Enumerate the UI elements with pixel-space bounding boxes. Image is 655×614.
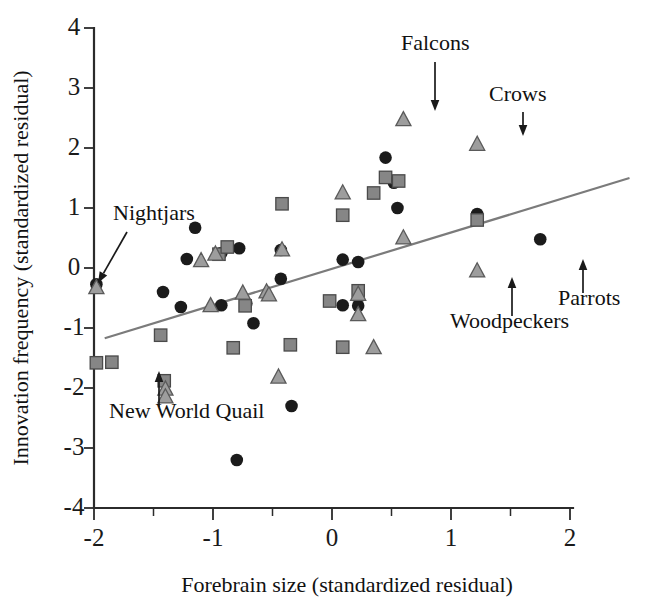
data-point-circle (233, 242, 246, 255)
data-point-circle (534, 233, 547, 246)
data-point-circle (275, 273, 288, 286)
data-point-square (392, 175, 404, 187)
x-tick-label: -1 (203, 524, 224, 551)
data-point-square (337, 341, 349, 353)
data-point-square (367, 187, 379, 199)
x-axis-title: Forebrain size (standardized residual) (181, 572, 513, 597)
y-tick-label: -2 (64, 373, 85, 400)
figure-container: -4-3-2-101234-2-1012 NightjarsNew World … (0, 0, 655, 614)
data-point-triangle (366, 340, 381, 354)
annotation-label-parrots: Parrots (558, 285, 620, 310)
data-point-triangle (271, 369, 286, 383)
x-tick-label: 2 (564, 524, 577, 551)
data-point-square (154, 329, 166, 341)
annotations: NightjarsNew World QuailFalconsCrowsWood… (98, 30, 620, 423)
annotation-label-new-world-quail: New World Quail (109, 398, 264, 423)
annotation-arrowhead-parrots (579, 259, 588, 270)
data-point-square (284, 339, 296, 351)
data-point-square (106, 356, 118, 368)
y-tick-label: -3 (64, 433, 85, 460)
data-point-square (323, 295, 335, 307)
scatter-plot: -4-3-2-101234-2-1012 NightjarsNew World … (0, 0, 655, 614)
data-point-triangle (194, 253, 209, 267)
data-point-square (90, 357, 102, 369)
annotation-label-falcons: Falcons (401, 30, 469, 55)
data-point-square (471, 214, 483, 226)
annotation-label-nightjars: Nightjars (113, 200, 195, 225)
annotation-arrowhead-falcons (431, 100, 440, 111)
y-tick-label: 0 (68, 253, 81, 280)
data-point-circle (285, 400, 298, 413)
data-point-circle (379, 151, 392, 164)
x-tick-label: 1 (445, 524, 458, 551)
data-point-circle (181, 253, 194, 266)
data-point-circle (175, 301, 188, 314)
data-point-square (276, 198, 288, 210)
annotation-arrowhead-nightjars (98, 271, 107, 283)
annotation-arrow-nightjars (103, 232, 127, 273)
data-point-triangle (335, 185, 350, 199)
annotation-arrowhead-crows (519, 125, 528, 136)
y-tick-label: 2 (68, 133, 81, 160)
y-tick-label: 3 (68, 73, 81, 100)
data-point-circle (231, 454, 244, 467)
data-point-square (227, 342, 239, 354)
y-tick-label: 1 (68, 193, 81, 220)
data-point-square (239, 300, 251, 312)
data-point-circle (352, 256, 365, 269)
data-point-circle (391, 202, 404, 215)
data-point-triangle (470, 136, 485, 150)
data-point-triangle (396, 230, 411, 244)
data-point-circle (157, 286, 170, 299)
y-axis-title: Innovation frequency (standardized resid… (8, 70, 33, 465)
data-point-circle (247, 317, 260, 330)
annotation-arrowhead-woodpeckers (508, 277, 517, 288)
y-tick-label: -1 (64, 313, 85, 340)
data-point-circle (336, 253, 349, 266)
data-point-circle (336, 299, 349, 312)
y-tick-label: -4 (64, 493, 85, 520)
data-point-square (379, 171, 391, 183)
y-tick-label: 4 (68, 13, 81, 40)
x-tick-label: 0 (326, 524, 339, 551)
x-tick-label: -2 (84, 524, 105, 551)
annotation-label-crows: Crows (489, 81, 546, 106)
annotation-label-woodpeckers: Woodpeckers (450, 308, 569, 333)
data-point-square (221, 241, 233, 253)
data-point-triangle (396, 112, 411, 126)
data-point-triangle (235, 285, 250, 299)
data-point-square (337, 209, 349, 221)
data-point-triangle (470, 263, 485, 277)
